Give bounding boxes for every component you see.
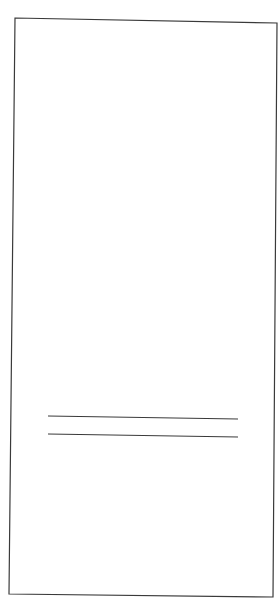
blank-writing-line-2 — [48, 434, 238, 437]
scanned-page — [0, 0, 278, 602]
blank-writing-line-1 — [48, 416, 238, 419]
page-border-frame — [9, 18, 277, 597]
